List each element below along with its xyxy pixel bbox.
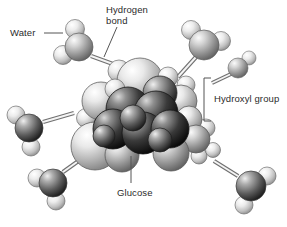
label-glucose: Glucose	[117, 187, 153, 198]
hydrogen-bond-link	[212, 74, 231, 83]
water-molecule	[54, 20, 94, 65]
label-hydroxyl-group: Hydroxyl group	[214, 93, 279, 104]
hydrogen-bond-link	[178, 57, 196, 77]
hydrogen-bond-link	[214, 161, 238, 176]
hydrogen-bond-leader-line	[104, 27, 117, 57]
molecular-diagram-figure: Water Hydrogen bond Hydroxyl group Gluco…	[0, 0, 287, 227]
water-molecule	[28, 169, 67, 210]
water-molecule	[7, 106, 43, 156]
hydrogen-bond-link	[43, 113, 74, 122]
hydroxyl-bracket	[204, 78, 211, 121]
water-molecule	[228, 51, 256, 78]
label-hydrogen-bond: Hydrogen bond	[106, 4, 148, 26]
water-molecule	[182, 21, 231, 61]
hydrogen-bond-link	[91, 56, 113, 64]
label-water: Water	[10, 27, 35, 38]
water-molecule	[235, 167, 276, 214]
